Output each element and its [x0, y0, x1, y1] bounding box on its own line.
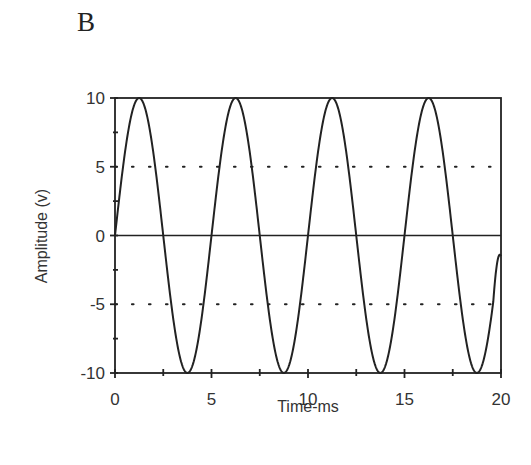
x-tick-label: 20 [492, 390, 511, 409]
x-tick-label: 0 [110, 390, 119, 409]
y-axis-title: Amplitude (v) [33, 189, 50, 283]
y-tick-label: -10 [80, 364, 105, 383]
y-tick-label: 0 [96, 227, 105, 246]
y-axis: -10-50510 [80, 89, 118, 383]
x-tick-label: 5 [207, 390, 216, 409]
y-tick-label: 5 [96, 158, 105, 177]
x-axis-title: Time-ms [277, 398, 339, 415]
y-tick-label: -5 [90, 295, 105, 314]
x-tick-label: 15 [395, 390, 414, 409]
sine-wave-chart: -10-50510 05101520 Time-ms Amplitude (v) [0, 0, 531, 465]
y-tick-label: 10 [86, 89, 105, 108]
